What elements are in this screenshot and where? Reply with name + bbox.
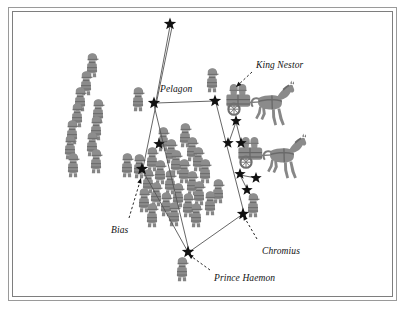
soldier-figure (151, 182, 163, 206)
leader-arrowhead-bias (137, 178, 141, 184)
soldier-figure (122, 153, 134, 177)
chariot-with-horse-lower (238, 134, 306, 179)
soldier-figure (177, 257, 189, 281)
label-prince-haemon: Prince Haemon (214, 273, 275, 283)
soldier-figure (133, 87, 145, 111)
soldier-figure (207, 68, 219, 92)
line-pelagon-to-nestor (156, 101, 214, 103)
diagram-canvas (0, 0, 405, 309)
star-chariot2-b (250, 172, 261, 183)
star-nestor-right-a (230, 115, 241, 126)
left-flank-infantry (65, 53, 105, 177)
label-pelagon: Pelagon (160, 84, 192, 94)
soldier-figure (147, 203, 159, 227)
soldier-figure (248, 193, 260, 217)
soldier-figure (200, 159, 212, 183)
soldier-figure (91, 149, 103, 173)
line-nestor-cluster-a (229, 122, 236, 142)
soldier-figure (194, 181, 206, 205)
soldier-figure (191, 203, 203, 227)
star-chariot2-c (241, 184, 252, 195)
battle-formation-diagram: King NestorPelagonBiasChromiusPrince Hae… (0, 0, 405, 309)
star-nestor-right-b (222, 137, 233, 148)
star-chariot2-a (234, 168, 245, 179)
soldier-figure (68, 153, 80, 177)
leader-line-bias (129, 178, 141, 218)
label-chromius: Chromius (262, 246, 300, 256)
star-king-nestor (209, 95, 221, 107)
label-bias: Bias (111, 225, 128, 235)
soldier-figure (213, 179, 225, 203)
chariot-figures-layer (226, 81, 306, 179)
soldier-figure (155, 160, 167, 184)
label-king-nestor: King Nestor (256, 60, 303, 70)
